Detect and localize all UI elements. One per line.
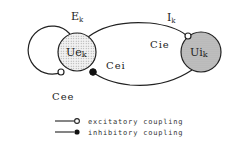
coupling-diagram: Uek Uik Ek Ik Cie Cei Cee excitatory cou… (0, 0, 235, 145)
excitatory-terminal-cee (58, 69, 64, 75)
label-e-group: Ek (71, 10, 84, 24)
inhibitory-legend-icon (74, 129, 79, 134)
label-cie: Cie (150, 39, 170, 50)
inhibitory-terminal-cei (90, 69, 97, 76)
legend: excitatory coupling inhibitory coupling (55, 118, 183, 137)
node-ue: Uek (58, 33, 96, 71)
label-cei: Cei (106, 60, 126, 71)
arc-cei (93, 70, 192, 85)
legend-excitatory-label: excitatory coupling (88, 118, 183, 126)
legend-inhibitory-label: inhibitory coupling (88, 129, 183, 137)
label-i-group: Ik (167, 11, 176, 25)
excitatory-legend-icon (75, 119, 80, 124)
label-cee: Cee (52, 91, 75, 102)
excitatory-terminal-cie (185, 33, 191, 39)
